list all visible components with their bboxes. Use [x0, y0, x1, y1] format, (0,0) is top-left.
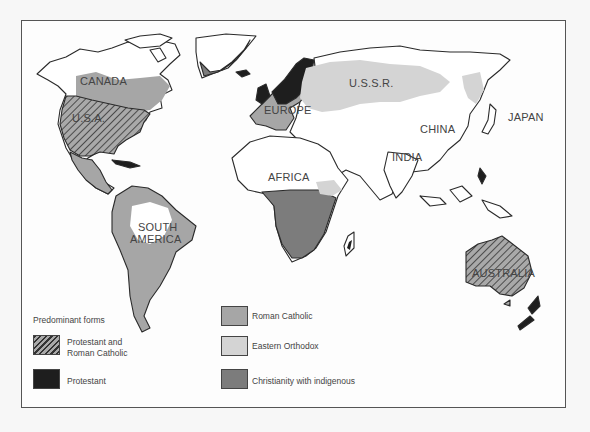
- label-japan: JAPAN: [508, 111, 544, 123]
- legend-label-protestant: Protestant: [67, 376, 106, 387]
- legend-swatch-roman-catholic: [221, 306, 248, 326]
- legend-label-christianity-indigenous: Christianity with indigenous: [252, 376, 355, 387]
- legend-swatch-protestant-roman-catholic: [33, 335, 60, 355]
- label-south-america-line2: AMERICA: [130, 233, 182, 245]
- world-map: [0, 0, 590, 432]
- label-india: INDIA: [392, 151, 422, 163]
- label-europe: EUROPE: [264, 104, 312, 116]
- japan: [482, 104, 496, 134]
- australia: [466, 236, 532, 296]
- legend-title: Predominant forms: [33, 315, 105, 325]
- label-africa: AFRICA: [268, 171, 310, 183]
- africa-indigenous-region: [262, 190, 336, 258]
- label-canada: CANADA: [80, 75, 127, 87]
- legend-label-roman-catholic: Roman Catholic: [252, 311, 312, 322]
- legend-label-protestant-roman-catholic: Protestant and Roman Catholic: [67, 337, 127, 358]
- label-usa: U.S.A.: [72, 112, 105, 124]
- legend-swatch-eastern-orthodox: [221, 336, 248, 356]
- legend-label-eastern-orthodox: Eastern Orthodox: [252, 341, 319, 352]
- label-ussr: U.S.S.R.: [349, 77, 393, 89]
- label-south-america-line1: SOUTH: [138, 221, 178, 233]
- legend-swatch-christianity-indigenous: [221, 369, 248, 389]
- label-china: CHINA: [420, 123, 455, 135]
- legend-swatch-protestant: [33, 369, 60, 389]
- new-zealand: [518, 296, 540, 330]
- label-australia: AUSTRALIA: [472, 267, 535, 279]
